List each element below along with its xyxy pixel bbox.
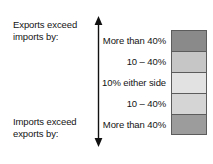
legend-row-label: 10 – 40% [100,56,171,67]
legend-row-swatch [171,93,207,114]
legend-row-swatch [171,30,207,51]
legend-class-list: More than 40% 10 – 40% 10% either side 1… [100,30,207,135]
legend-row: 10 – 40% [100,51,207,72]
caption-imports-line-2: exports by: [13,128,77,140]
caption-imports-line-1: Imports exceed [13,116,77,128]
legend-row-swatch [171,51,207,72]
caption-exports-line-1: Exports exceed [13,19,77,31]
legend-row-label: More than 40% [100,119,171,130]
legend-row-swatch [171,72,207,93]
trade-balance-legend: Exports exceed imports by: Imports excee… [0,0,213,164]
caption-exports-exceed: Exports exceed imports by: [13,19,77,42]
caption-exports-line-2: imports by: [13,31,77,43]
legend-row-label: 10% either side [100,77,171,88]
legend-row: More than 40% [100,30,207,51]
caption-imports-exceed: Imports exceed exports by: [13,116,77,139]
legend-row: More than 40% [100,114,207,135]
legend-row: 10 – 40% [100,93,207,114]
legend-row: 10% either side [100,72,207,93]
legend-row-swatch [171,114,207,135]
legend-row-label: 10 – 40% [100,98,171,109]
legend-row-label: More than 40% [100,35,171,46]
